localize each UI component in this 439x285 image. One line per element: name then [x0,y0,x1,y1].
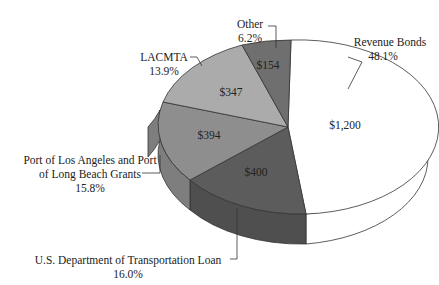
label-revenue-bonds: Revenue Bonds 48.1% [340,35,439,63]
value-usdot: $400 [245,166,268,178]
label-port-name-1: Port of Los Angeles and Port [15,153,165,167]
label-other: Other 6.2% [232,17,268,45]
label-port-pct: 15.8% [15,181,165,195]
label-other-pct: 6.2% [232,31,268,45]
label-revenue-pct: 48.1% [340,49,439,63]
label-other-name: Other [232,17,268,31]
value-revenue: $1,200 [329,119,361,132]
value-lacmta: $347 [220,86,243,98]
value-other: $154 [257,59,280,71]
value-port: $394 [198,129,221,141]
label-revenue-name: Revenue Bonds [340,35,439,49]
label-lacmta-pct: 13.9% [138,64,190,78]
label-usdot-name: U.S. Department of Transportation Loan [28,253,228,267]
label-usdot-loan: U.S. Department of Transportation Loan 1… [28,253,228,281]
label-lacmta: LACMTA 13.9% [138,50,190,78]
label-port-name-2: of Long Beach Grants [15,167,165,181]
label-port-grants: Port of Los Angeles and Port of Long Bea… [15,153,165,195]
label-usdot-pct: 16.0% [28,267,228,281]
label-lacmta-name: LACMTA [138,50,190,64]
